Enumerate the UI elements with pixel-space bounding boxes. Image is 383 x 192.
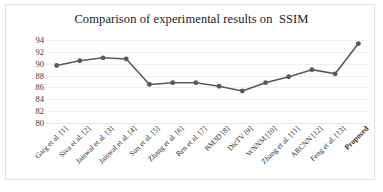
data-point-marker	[333, 71, 338, 76]
x-axis-tick-label: Proposed	[343, 124, 371, 152]
y-axis-tick-label: 86	[24, 83, 44, 92]
data-point-marker	[101, 55, 106, 60]
y-axis-tick-label: 80	[24, 119, 44, 128]
y-axis-tick-label: 92	[24, 48, 44, 57]
chart-title: Comparison of experimental results on SS…	[0, 12, 383, 27]
data-point-marker	[193, 80, 198, 85]
plot-area	[45, 40, 370, 123]
line-series	[45, 40, 370, 123]
x-axis-tick-labels: Garg et al. [1]Siva et al. [2]Jaiswal et…	[45, 124, 370, 190]
series-line	[57, 44, 359, 91]
data-point-marker	[54, 63, 59, 68]
chart-figure: Comparison of experimental results on SS…	[0, 0, 383, 192]
data-point-marker	[263, 80, 268, 85]
y-axis-tick-label: 88	[24, 72, 44, 81]
y-axis-tick-label: 82	[24, 107, 44, 116]
data-point-marker	[356, 41, 361, 46]
y-axis-tick-labels: 9492908886848280	[24, 34, 44, 129]
data-point-marker	[286, 74, 291, 79]
data-point-marker	[217, 84, 222, 89]
data-point-marker	[310, 67, 315, 72]
data-point-marker	[240, 89, 245, 94]
data-point-marker	[170, 80, 175, 85]
data-point-marker	[77, 58, 82, 63]
data-point-marker	[147, 82, 152, 87]
y-axis-tick-label: 90	[24, 60, 44, 69]
y-axis-tick-label: 94	[24, 36, 44, 45]
y-axis-tick-label: 84	[24, 95, 44, 104]
data-point-marker	[124, 57, 129, 62]
